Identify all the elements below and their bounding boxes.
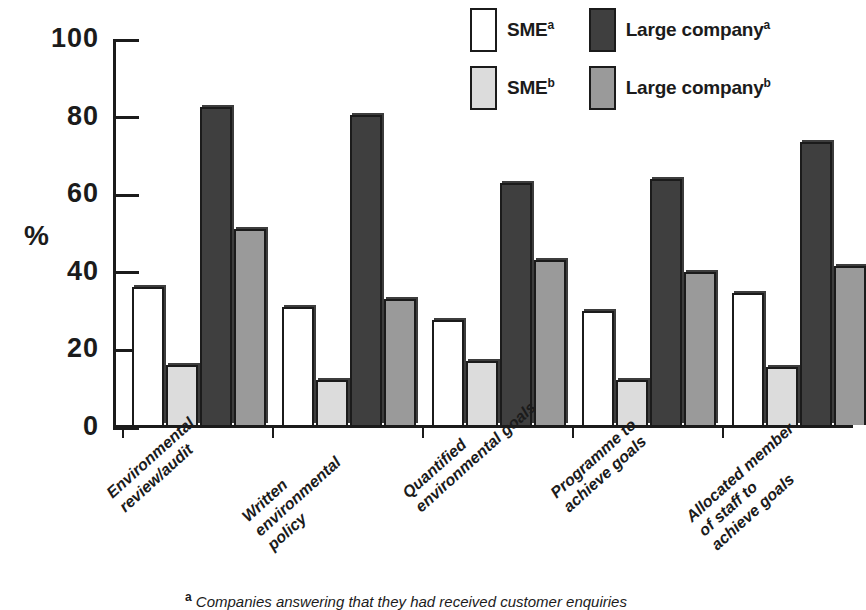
bar-2-large-companya [350, 115, 382, 425]
category-label-5: Allocated member of staff to achieve goa… [682, 419, 823, 554]
bar-2-smea [282, 307, 314, 425]
x-tick-1 [122, 425, 124, 438]
legend-label-large-company-a: Large companya [626, 18, 770, 41]
category-label-2: Written environmental policy [238, 438, 357, 554]
category-label-4: Programme to achieve goals [547, 415, 653, 516]
plot-area: 100806040200 [113, 40, 853, 428]
chart-footnote: a Companies answering that they had rece… [185, 590, 627, 610]
bar-3-large-companyb [534, 260, 566, 425]
legend-label-sme-a: SMEa [507, 18, 554, 41]
y-tick-label-80: 80 [67, 100, 99, 131]
footnote-marker: a [185, 590, 192, 604]
bar-4-large-companya [650, 179, 682, 425]
bar-4-smea [582, 311, 614, 425]
bar-group-4 [566, 40, 716, 425]
x-tick-5 [722, 425, 724, 438]
x-tick-2 [272, 425, 274, 438]
bar-3-smea [432, 320, 464, 425]
bar-groups [116, 40, 853, 425]
bar-group-1 [116, 40, 266, 425]
bar-4-large-companyb [684, 272, 716, 425]
legend-text-sme-a: SME [507, 20, 548, 41]
bar-4-smeb [616, 380, 648, 425]
bar-group-5 [716, 40, 866, 425]
x-tick-4 [572, 425, 574, 438]
bar-5-smea [732, 293, 764, 425]
bar-group-3 [416, 40, 566, 425]
bar-5-large-companya [800, 142, 832, 425]
bar-2-large-companyb [384, 299, 416, 425]
bar-5-large-companyb [834, 266, 866, 425]
bar-1-smea [132, 287, 164, 425]
y-tick-label-60: 60 [67, 178, 99, 209]
y-tick-label-0: 0 [83, 411, 99, 442]
y-tick-0 [113, 427, 139, 430]
bar-1-large-companya [200, 107, 232, 425]
footnote-text: Companies answering that they had receiv… [192, 593, 627, 610]
legend-text-large-company-a: Large company [626, 20, 764, 41]
x-tick-3 [422, 425, 424, 438]
bar-2-smeb [316, 380, 348, 425]
bar-group-2 [266, 40, 416, 425]
y-tick-label-20: 20 [67, 333, 99, 364]
bar-1-large-companyb [234, 229, 266, 425]
y-tick-label-40: 40 [67, 255, 99, 286]
legend-sup-large-company-a: a [764, 18, 770, 32]
y-tick-label-100: 100 [51, 23, 99, 54]
y-axis-title: % [24, 220, 49, 252]
bar-5-smeb [766, 367, 798, 425]
legend-sup-sme-a: a [548, 18, 554, 32]
